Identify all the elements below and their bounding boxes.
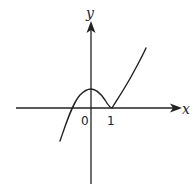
y-axis-label: y xyxy=(85,5,95,21)
function-curve xyxy=(60,48,146,141)
origin-label: 0 xyxy=(81,114,89,128)
x-axis-label: x xyxy=(182,101,190,117)
function-graph: y x 0 1 xyxy=(0,0,196,192)
tick-label-one: 1 xyxy=(107,114,115,128)
